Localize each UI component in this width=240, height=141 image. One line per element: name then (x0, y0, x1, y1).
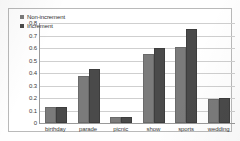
bar-group (170, 23, 203, 123)
legend-entry: Increment (20, 23, 65, 29)
y-axis-tick-label: 0.3 (29, 83, 37, 89)
x-axis-tick-label: picnic (104, 126, 137, 133)
bar-group (105, 23, 138, 123)
bar (56, 107, 67, 123)
y-axis-tick-label: 0.6 (29, 45, 37, 51)
bar (121, 117, 132, 123)
x-axis-tick-labels: birthdayparadepicnicshowsportswedding (39, 126, 235, 133)
y-axis-tick-label: 0.1 (29, 108, 37, 114)
x-axis-tick-label: parade (72, 126, 105, 133)
bar (89, 69, 100, 123)
bar (154, 48, 165, 123)
legend-swatch-icon (20, 24, 24, 28)
y-axis-tick-label: 0.7 (29, 33, 37, 39)
bar-group (203, 23, 236, 123)
bar (78, 76, 89, 124)
bar (45, 107, 56, 123)
legend-label: Non-increment (27, 14, 65, 20)
bar (175, 47, 186, 123)
y-axis-tick-label: 0.2 (29, 95, 37, 101)
y-axis-tick-label: 0 (34, 120, 37, 126)
x-axis-tick-label: wedding (202, 126, 235, 133)
bar (143, 54, 154, 123)
y-axis-tick-label: 0.4 (29, 70, 37, 76)
bars-layer (40, 23, 235, 123)
chart-legend: Non-incrementIncrement (20, 14, 65, 29)
bar-group (73, 23, 106, 123)
bar (186, 29, 197, 123)
x-axis-tick-label: show (137, 126, 170, 133)
bar (208, 99, 219, 123)
bar (110, 117, 121, 123)
y-axis-tick-label: 0.5 (29, 58, 37, 64)
bar-group (138, 23, 171, 123)
bar (219, 98, 230, 123)
chart-plot-frame: 00.10.20.30.40.50.60.70.8 birthdayparade… (8, 8, 232, 132)
legend-entry: Non-increment (20, 14, 65, 20)
plot-area: 00.10.20.30.40.50.60.70.8 (39, 23, 235, 124)
chart-figure: 00.10.20.30.40.50.60.70.8 birthdayparade… (0, 0, 240, 141)
x-axis-tick-label: birthday (39, 126, 72, 133)
legend-label: Increment (27, 23, 53, 29)
bar-group (40, 23, 73, 123)
legend-swatch-icon (20, 15, 24, 19)
x-axis-tick-label: sports (170, 126, 203, 133)
